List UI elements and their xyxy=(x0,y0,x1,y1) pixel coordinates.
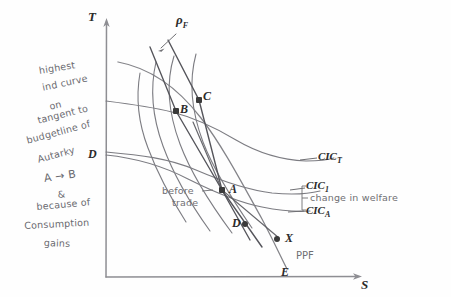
point-A xyxy=(219,187,225,193)
point-X xyxy=(274,236,280,242)
data-points-group xyxy=(173,97,280,242)
point-C xyxy=(196,97,202,103)
cic-leader-lines xyxy=(288,158,317,212)
y-axis xyxy=(106,22,107,277)
change-in-welfare-bracket xyxy=(302,186,308,210)
x-axis xyxy=(106,277,358,278)
price-line-autarky xyxy=(150,47,250,240)
point-D-curve xyxy=(242,221,248,227)
ppf-curve xyxy=(118,62,287,269)
cic-t-curve xyxy=(106,152,320,194)
cic-t-upper-arc xyxy=(106,101,334,161)
cic-a-curve xyxy=(106,155,310,211)
axes-group xyxy=(103,18,362,280)
diagram-svg xyxy=(0,0,451,297)
point-B xyxy=(173,108,179,114)
diagram-canvas: T S A B C D D E X CICT CIC1 CICA PPF ρF … xyxy=(0,0,451,297)
